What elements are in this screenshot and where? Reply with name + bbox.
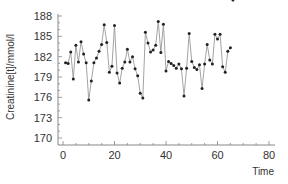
data-point [177, 63, 180, 66]
data-point [131, 55, 134, 58]
data-point [85, 61, 88, 64]
x-tick-label: 60 [211, 149, 223, 161]
y-tick-label: 173 [34, 112, 52, 124]
data-point [141, 97, 144, 100]
data-point [87, 99, 90, 102]
data-point [213, 33, 216, 36]
data-point [121, 67, 124, 70]
data-point [203, 63, 206, 66]
data-point [90, 80, 93, 83]
data-point [80, 40, 83, 43]
data-point [116, 71, 119, 74]
data-point [118, 82, 121, 85]
data-point [69, 50, 72, 53]
data-point [136, 74, 139, 77]
data-point [201, 87, 204, 90]
data-point [198, 63, 201, 66]
data-point [139, 92, 142, 95]
data-point [185, 67, 188, 70]
data-point [123, 61, 126, 64]
plot-area [64, 0, 234, 102]
data-point [226, 50, 229, 53]
data-point [72, 78, 75, 81]
line-chart: 170173176179182185188020406080 Time Crea… [0, 0, 288, 184]
x-axis-title: Time [252, 166, 274, 177]
data-point [77, 61, 80, 64]
x-tick-label: 80 [263, 149, 275, 161]
data-point [74, 44, 77, 47]
data-point [206, 43, 209, 46]
y-tick-label: 182 [34, 51, 52, 63]
data-point [98, 50, 101, 53]
data-point [128, 61, 131, 64]
axes: 170173176179182185188020406080 [34, 10, 275, 161]
data-point [152, 48, 155, 51]
data-point [105, 41, 108, 44]
data-point [231, 0, 234, 2]
data-point [216, 38, 219, 41]
data-point [154, 44, 157, 47]
data-point [224, 71, 227, 74]
data-point [95, 57, 98, 60]
data-point [170, 62, 173, 65]
data-point [100, 43, 103, 46]
x-tick-label: 40 [160, 149, 172, 161]
data-point [195, 68, 198, 71]
data-point [219, 33, 222, 36]
data-point [144, 31, 147, 34]
data-point [67, 62, 70, 65]
y-tick-label: 188 [34, 10, 52, 22]
data-point [167, 60, 170, 63]
y-tick-label: 179 [34, 71, 52, 83]
data-point [159, 51, 162, 54]
data-point [221, 65, 224, 68]
data-point [162, 23, 165, 26]
data-point [134, 67, 137, 70]
data-point [113, 24, 116, 27]
y-tick-label: 185 [34, 30, 52, 42]
data-point [110, 65, 113, 68]
data-point [92, 61, 95, 64]
x-tick-label: 20 [108, 149, 120, 161]
data-point [180, 67, 183, 70]
data-point [126, 48, 129, 51]
data-point [229, 46, 232, 49]
data-point [149, 50, 152, 53]
data-point [183, 94, 186, 97]
data-point [175, 67, 178, 70]
data-point [157, 20, 160, 23]
x-tick-label: 0 [60, 149, 66, 161]
y-axis-title: Creatinine[t]/mmol/l [5, 34, 16, 120]
data-point [64, 61, 67, 64]
data-point [188, 32, 191, 35]
data-point [208, 59, 211, 62]
y-tick-label: 176 [34, 91, 52, 103]
data-point [190, 60, 193, 63]
data-point [82, 52, 85, 55]
y-tick-label: 170 [34, 132, 52, 144]
data-point [211, 63, 214, 66]
data-point [165, 69, 168, 72]
data-point [172, 64, 175, 67]
series-line [66, 21, 231, 100]
data-point [103, 23, 106, 26]
data-point [146, 42, 149, 45]
data-point [193, 66, 196, 69]
data-point [108, 71, 111, 74]
